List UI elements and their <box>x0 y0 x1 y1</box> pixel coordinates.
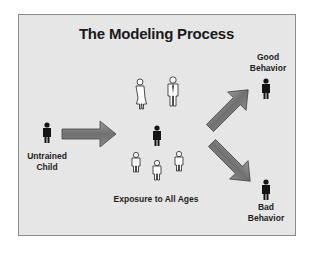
label-line: Behavior <box>236 213 296 224</box>
person-dark-icon <box>262 78 270 99</box>
arrow-right-icon <box>62 121 116 147</box>
person-child-outline-icon <box>153 160 161 180</box>
label-line: Behavior <box>238 63 298 74</box>
untrained-child-label: Untrained Child <box>18 151 76 173</box>
bad-behavior-label: Bad Behavior <box>236 202 296 224</box>
arrow-up-right-icon <box>201 81 258 138</box>
person-dark-icon <box>153 125 161 146</box>
person-woman-outline-icon <box>136 79 147 109</box>
label-line: Child <box>18 162 76 173</box>
person-man-tie-outline-icon <box>168 77 178 106</box>
arrow-down-right-icon <box>203 134 260 191</box>
label-line: Bad <box>236 202 296 213</box>
person-dark-icon <box>262 179 270 200</box>
label-line: Untrained <box>18 151 76 162</box>
person-child-outline-icon <box>175 151 183 171</box>
good-behavior-label: Good Behavior <box>238 52 298 74</box>
person-child-outline-icon <box>132 152 140 172</box>
person-dark-icon <box>43 122 51 143</box>
exposure-label: Exposure to All Ages <box>100 194 212 205</box>
label-line: Good <box>238 52 298 63</box>
